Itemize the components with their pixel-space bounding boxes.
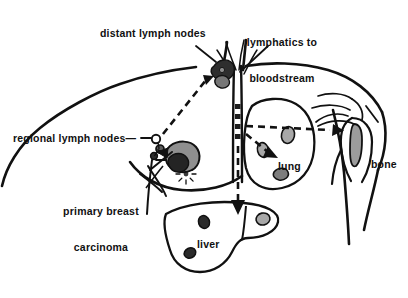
route-regional-to-distant (163, 80, 206, 134)
liver-metastatic-nodules (182, 212, 271, 260)
leader-distant-nodes (196, 46, 216, 62)
regional-lymph-nodes (151, 135, 164, 160)
label-carcinoma-line2: carcinoma (48, 241, 154, 253)
label-liver: liver (197, 238, 220, 250)
label-lung: lung (278, 160, 301, 172)
label-regional-lymph-nodes: regional lymph nodes— (13, 132, 136, 144)
distant-lymph-node-cluster (211, 60, 234, 88)
lung (244, 99, 314, 189)
label-primary-breast-carcinoma: primary breast carcinoma (48, 181, 154, 277)
label-carcinoma-line1: primary breast (48, 205, 154, 217)
liver (164, 202, 278, 272)
bone-metastatic-lesion (350, 124, 362, 166)
metastasis-diagram: distant lymph nodes lymphatics to bloods… (0, 0, 408, 298)
label-bone: bone (371, 158, 397, 170)
label-lymphatics-to-bloodstream: lymphatics to bloodstream (232, 12, 332, 108)
label-distant-lymph-nodes: distant lymph nodes (100, 27, 206, 39)
leader-bone (366, 106, 378, 122)
tumor-emboli (235, 104, 241, 139)
label-lymphatics-line2: bloodstream (232, 72, 332, 84)
label-lymphatics-line1: lymphatics to (232, 36, 332, 48)
